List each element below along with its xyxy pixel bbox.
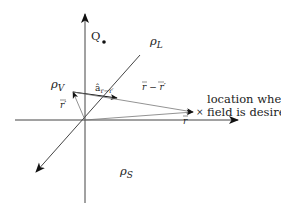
- r-label: r: [183, 116, 188, 126]
- location-text-line2: field is desired: [207, 105, 281, 119]
- r-minus-r-prime-vector: [73, 92, 193, 112]
- r-minus-r-prime-label: r − r′: [142, 82, 166, 92]
- point-charge-dot: [102, 40, 106, 44]
- r-prime-vector: [73, 92, 85, 120]
- surface-charge-label: ρS: [119, 164, 133, 180]
- target-marker-icon: ×: [196, 107, 204, 117]
- x-axis: [36, 55, 140, 172]
- r-vector: [85, 112, 193, 120]
- location-text-line1: location where: [207, 92, 281, 106]
- unit-vector-label: âr−r′: [95, 83, 114, 95]
- charge-distribution-diagram: Q ρL ρV ρS âr−r′ r′ r − r′ r × location …: [0, 0, 281, 213]
- line-charge-label: ρL: [149, 34, 163, 50]
- point-charge-label: Q: [91, 29, 100, 43]
- r-prime-label: r′: [60, 100, 66, 110]
- volume-charge-label: ρV: [50, 77, 66, 93]
